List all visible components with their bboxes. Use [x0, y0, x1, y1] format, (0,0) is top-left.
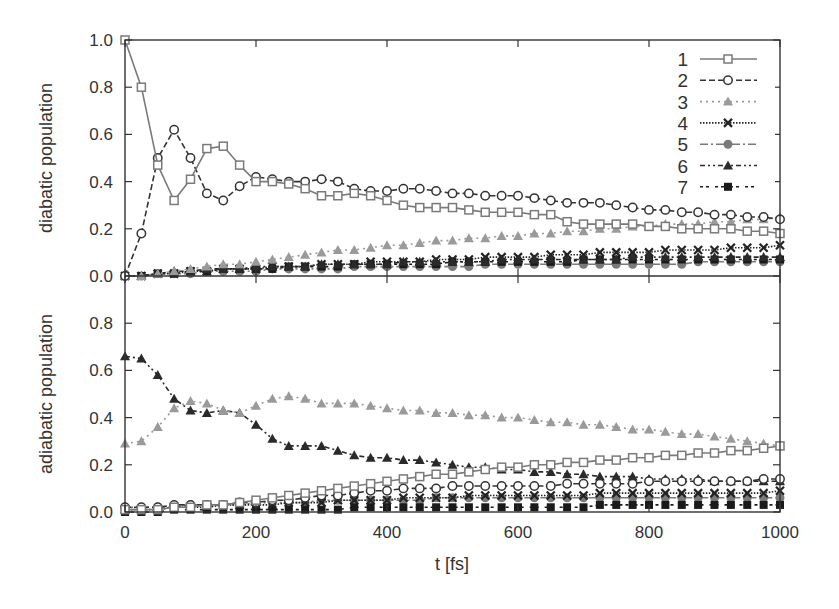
series-7-marker — [678, 501, 686, 509]
series-1-marker — [645, 454, 653, 462]
legend-label: 3 — [677, 92, 688, 113]
adiabatic-panel — [120, 351, 785, 516]
series-3-marker — [218, 406, 228, 415]
legend-label: 2 — [677, 70, 688, 91]
series-1-marker — [268, 494, 276, 502]
series-3-marker — [710, 431, 720, 440]
bottom-y-tick-label: 0.2 — [89, 456, 113, 475]
series-3-marker — [366, 243, 376, 252]
series-3-marker — [136, 436, 146, 445]
series-1-marker — [580, 458, 588, 466]
series-1-marker — [367, 192, 375, 200]
series-3-marker — [333, 398, 343, 407]
bottom-y-tick-label: 0.4 — [89, 409, 113, 428]
series-2-marker — [399, 184, 407, 192]
series-2-marker — [645, 206, 653, 214]
series-2-marker — [481, 192, 489, 200]
series-2-marker — [547, 196, 555, 204]
series-3-marker — [251, 401, 261, 410]
series-2-marker — [579, 479, 587, 487]
series-1-marker — [301, 489, 309, 497]
series-3-marker — [464, 233, 474, 242]
legend-marker-sample — [724, 140, 733, 149]
series-1-marker — [399, 201, 407, 209]
series-7-marker — [661, 501, 669, 509]
legend-marker-sample — [724, 55, 732, 63]
series-3-marker — [431, 236, 441, 245]
series-1-marker — [661, 451, 669, 459]
series-1-marker — [432, 204, 440, 212]
series-1-marker — [547, 211, 555, 219]
series-3-marker — [333, 245, 343, 254]
series-2-marker — [448, 482, 456, 490]
top-y-axis-title: diabatic population — [36, 83, 56, 233]
series-1-marker — [711, 449, 719, 457]
series-3-marker — [235, 259, 245, 268]
series-3-marker — [644, 424, 654, 433]
series-1-marker — [383, 196, 391, 204]
series-7-marker — [580, 503, 588, 511]
series-2-marker — [416, 484, 424, 492]
series-6 — [120, 351, 785, 485]
series-7-marker — [432, 503, 440, 511]
series-2-marker — [137, 229, 145, 237]
series-2-marker — [759, 475, 767, 483]
series-2-marker — [727, 210, 735, 218]
series-2-marker — [547, 482, 555, 490]
series-7-marker — [711, 501, 719, 509]
series-1-marker — [547, 461, 555, 469]
series-1-marker — [645, 222, 653, 230]
series-1-marker — [481, 466, 489, 474]
series-1-marker — [318, 192, 326, 200]
series-1-marker — [350, 482, 358, 490]
series-2-marker — [678, 477, 686, 485]
series-6-marker — [317, 441, 327, 450]
series-3-line — [125, 396, 780, 446]
series-3-marker — [169, 403, 179, 412]
series-2-marker — [759, 213, 767, 221]
series-2-marker — [645, 477, 653, 485]
series-6-marker — [153, 370, 163, 379]
series-2-marker — [448, 189, 456, 197]
series-3-marker — [448, 236, 458, 245]
series-1-marker — [498, 208, 506, 216]
series-1-marker — [416, 204, 424, 212]
series-7-marker — [694, 501, 702, 509]
series-1-marker — [252, 496, 260, 504]
series-1-marker — [399, 475, 407, 483]
bottom-y-tick-label: 0.8 — [89, 314, 113, 333]
series-1-marker — [612, 220, 620, 228]
series-1-marker — [301, 185, 309, 193]
series-1-marker — [530, 461, 538, 469]
series-2-marker — [678, 208, 686, 216]
series-2-marker — [399, 484, 407, 492]
x-tick-label: 1000 — [761, 523, 799, 542]
top-y-tick-label: 0.8 — [89, 78, 113, 97]
series-3-marker — [693, 429, 703, 438]
series-1-marker — [170, 196, 178, 204]
series-1-marker — [498, 463, 506, 471]
series-2-marker — [727, 477, 735, 485]
bottom-y-tick-label: 0.6 — [89, 361, 113, 380]
series-2-marker — [563, 199, 571, 207]
series-2-marker — [317, 175, 325, 183]
series-3-marker — [251, 257, 261, 266]
series-3-marker — [202, 262, 212, 271]
x-tick-label: 800 — [635, 523, 663, 542]
series-1-marker — [252, 178, 260, 186]
series-7-marker — [596, 501, 604, 509]
series-1-marker — [285, 180, 293, 188]
series-2-marker — [383, 487, 391, 495]
series-2-marker — [563, 479, 571, 487]
series-7-marker — [530, 503, 538, 511]
series-1-marker — [629, 220, 637, 228]
top-y-tick-label: 0.4 — [89, 173, 113, 192]
series-2-marker — [694, 477, 702, 485]
series-3-marker — [726, 434, 736, 443]
series-2-marker — [219, 196, 227, 204]
series-1-marker — [743, 447, 751, 455]
series-1-marker — [154, 161, 162, 169]
series-7-marker — [498, 503, 506, 511]
series-1-marker — [236, 499, 244, 507]
bottom-y-axis-title: adiabatic population — [36, 314, 56, 474]
